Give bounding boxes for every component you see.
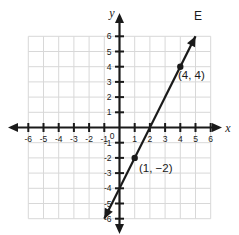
point-label-4-4: (4, 4) xyxy=(178,69,205,81)
graph-canvas: -6-5-4-3-2-1123456 654321-1-2-3-4-5-6 0 … xyxy=(0,0,239,235)
y-tick-label: -2 xyxy=(104,153,112,163)
y-tick-label: 1 xyxy=(107,107,112,117)
x-tick-label: -5 xyxy=(40,134,48,144)
x-tick-label: -3 xyxy=(70,134,78,144)
y-tick-label: 6 xyxy=(107,31,112,41)
y-tick-label: 2 xyxy=(107,92,112,102)
x-tick-label: 3 xyxy=(163,134,168,144)
x-tick-label: 6 xyxy=(208,134,213,144)
x-axis-arrow-right xyxy=(212,123,222,132)
origin-label: 0 xyxy=(110,131,115,141)
x-tick-label: 5 xyxy=(193,134,198,144)
coordinate-plane-graph: -6-5-4-3-2-1123456 654321-1-2-3-4-5-6 0 … xyxy=(0,0,239,235)
plotted-point xyxy=(132,155,138,161)
x-tick-label: -6 xyxy=(25,134,33,144)
point-label-1-neg2: (1, −2) xyxy=(139,162,173,174)
line-label-E: E xyxy=(194,9,202,23)
x-tick-label: -4 xyxy=(55,134,63,144)
x-tick-label: 4 xyxy=(178,134,183,144)
x-tick-label: -2 xyxy=(85,134,93,144)
y-tick-label: 4 xyxy=(107,62,112,72)
x-tick-label: 2 xyxy=(148,134,153,144)
x-tick-label: 1 xyxy=(132,134,137,144)
x-axis-arrow-left xyxy=(8,123,18,132)
y-tick-label: -3 xyxy=(104,168,112,178)
y-axis-arrow-down xyxy=(115,224,124,234)
y-tick-label: 3 xyxy=(107,77,112,87)
y-axis-arrow-up xyxy=(115,13,124,23)
y-axis-label: y xyxy=(108,6,115,20)
y-tick-label: 5 xyxy=(107,47,112,57)
x-axis-label: x xyxy=(224,121,231,135)
y-tick-label: -4 xyxy=(104,183,112,193)
